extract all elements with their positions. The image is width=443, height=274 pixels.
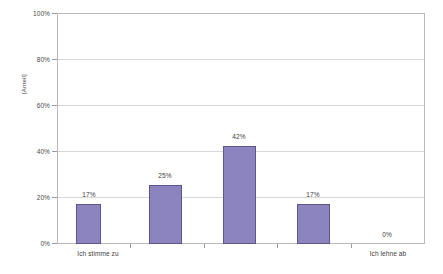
y-tick-label-0: 0% <box>2 240 50 247</box>
y-axis-title: [Anteil] <box>21 34 27 94</box>
y-axis: 100% 80% 60% 40% 20% 0% <box>0 0 54 274</box>
x-category-label-last: Ich lehne ab <box>353 250 423 257</box>
x-category-label-first: Ich stimme zu <box>63 250 133 257</box>
bar-chart: 100% 80% 60% 40% 20% 0% [Anteil] 17% 25%… <box>0 0 443 274</box>
x-tick-mark-1 <box>130 244 131 248</box>
bar-2 <box>149 185 182 244</box>
y-tick-label-100: 100% <box>2 10 50 17</box>
x-tick-mark-2 <box>204 244 205 248</box>
bar-4 <box>297 204 330 244</box>
bar-value-1: 17% <box>68 191 110 198</box>
bar-value-3: 42% <box>218 133 260 140</box>
y-tick-label-40: 40% <box>2 148 50 155</box>
gridline-60 <box>58 105 424 106</box>
bar-value-2: 25% <box>144 172 186 179</box>
bar-value-4: 17% <box>292 191 334 198</box>
y-tick-label-60: 60% <box>2 102 50 109</box>
x-tick-mark-4 <box>351 244 352 248</box>
x-tick-mark-3 <box>277 244 278 248</box>
bar-1 <box>76 204 101 244</box>
bar-3 <box>223 146 256 244</box>
gridline-80 <box>58 59 424 60</box>
y-tick-label-20: 20% <box>2 194 50 201</box>
bar-value-5: 0% <box>366 231 408 238</box>
